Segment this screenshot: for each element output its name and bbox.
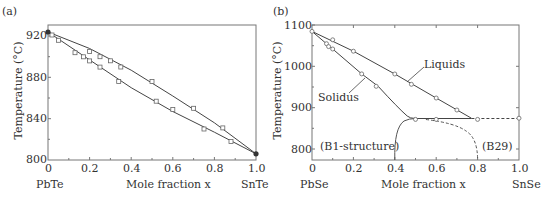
xtick-a-0.6: 0.6 [164, 163, 182, 174]
compound-snse: SnSe [512, 179, 541, 190]
compound-pbse: PbSe [300, 179, 329, 190]
annotation-b1-structure: (B1-structure) [320, 141, 399, 152]
ytick-b-1100: 1100 [284, 20, 312, 31]
endpoint-snte [253, 151, 258, 156]
ytick-a-840: 840 [26, 113, 47, 124]
x-axis-label-a: Mole fraction x [126, 179, 211, 190]
xtick-a-0.2: 0.2 [81, 163, 99, 174]
ytick-a-880: 880 [26, 72, 47, 83]
compound-snte: SnTe [241, 179, 269, 190]
xtick-b-0: 0 [309, 163, 316, 174]
xtick-b-0.8: 0.8 [469, 163, 487, 174]
liquidus-curve-a [48, 32, 256, 154]
annotation-liquids: Liquids [424, 59, 465, 70]
y-axis-label-a: Temperature (°C) [13, 41, 24, 141]
xtick-a-0.8: 0.8 [206, 163, 224, 174]
b1-boundary-dashed [426, 120, 478, 161]
x-axis-label-b: Mole fraction x [381, 179, 466, 190]
panel-a-plot [45, 25, 258, 160]
liquidus-curve-b [312, 31, 471, 118]
solidus-curve-a [48, 32, 256, 154]
y-axis-label-b: Temperature (°C) [272, 41, 283, 141]
compound-pbte: PbTe [36, 179, 63, 190]
panel-b-label: (b) [273, 6, 289, 17]
annotation-solidus: Solidus [318, 92, 359, 103]
xtick-b-1.0: 1.0 [511, 163, 529, 174]
ytick-a-800: 800 [26, 154, 47, 165]
xtick-a-1.0: 1.0 [248, 163, 266, 174]
xtick-a-0.4: 0.4 [123, 163, 141, 174]
xtick-b-0.2: 0.2 [345, 163, 363, 174]
liquids-leader [407, 67, 424, 82]
xtick-a-0: 0 [45, 163, 52, 174]
xtick-b-0.4: 0.4 [387, 163, 405, 174]
panel-a-label: (a) [2, 6, 17, 17]
xtick-b-0.6: 0.6 [428, 163, 446, 174]
ytick-a-920: 920 [26, 30, 47, 41]
annotation-b29: (B29) [482, 141, 513, 152]
ytick-b-900: 900 [291, 102, 312, 113]
ytick-b-800: 800 [291, 144, 312, 155]
ytick-b-1000: 1000 [284, 61, 312, 72]
